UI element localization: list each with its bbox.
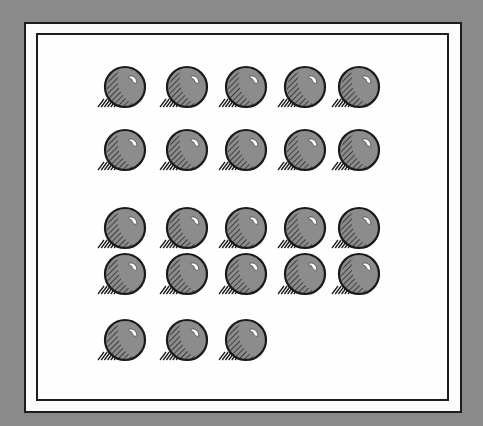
ball [219, 320, 266, 360]
ball [160, 67, 207, 107]
ball-grid [0, 0, 483, 426]
ball [98, 254, 145, 294]
ball [278, 254, 325, 294]
ball [98, 67, 145, 107]
ball [278, 130, 325, 170]
ball [160, 254, 207, 294]
ball [98, 320, 145, 360]
ball [219, 67, 266, 107]
ball [98, 208, 145, 248]
ball [332, 208, 379, 248]
ball [219, 130, 266, 170]
ball [160, 208, 207, 248]
ball [219, 254, 266, 294]
ball [160, 320, 207, 360]
ball [219, 208, 266, 248]
ball [332, 254, 379, 294]
ball [278, 208, 325, 248]
ball [98, 130, 145, 170]
ball [332, 130, 379, 170]
ball [278, 67, 325, 107]
ball [160, 130, 207, 170]
ball [332, 67, 379, 107]
